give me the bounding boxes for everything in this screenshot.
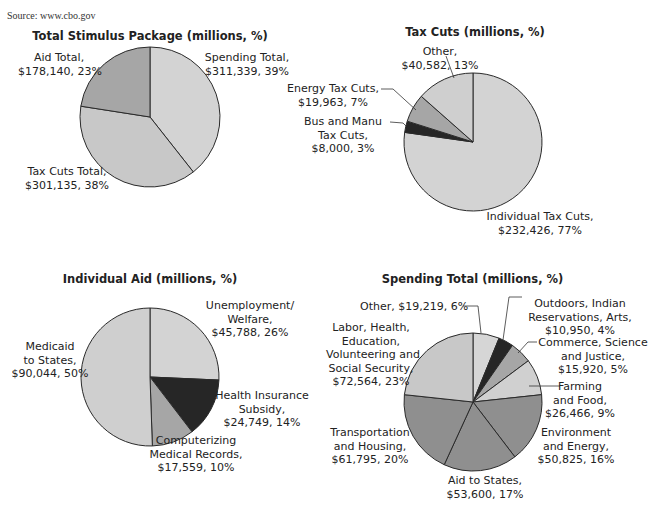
- label-tax-cuts-total: Tax Cuts Total, $301,135, 38%: [22, 165, 112, 192]
- label-commerce-science-justice: Commerce, Science and Justice, $15,920, …: [538, 336, 648, 377]
- label-bus-manu-tax-cuts: Bus and Manu Tax Cuts, $8,000, 3%: [300, 115, 386, 156]
- chart-title-tax-cuts: Tax Cuts (millions, %): [400, 25, 550, 39]
- label-spending-other: Other, $19,219, 6%: [360, 300, 460, 314]
- label-medicaid-to-states: Medicaid to States, $90,044, 50%: [10, 340, 90, 381]
- pie-tax-cuts: [404, 73, 542, 211]
- label-unemployment-welfare: Unemployment/ Welfare, $45,788, 26%: [200, 299, 300, 340]
- label-aid-to-states: Aid to States, $53,600, 17%: [440, 474, 530, 501]
- label-tax-other: Other, $40,582, 13%: [400, 45, 480, 72]
- label-transportation-housing: Transportation and Housing, $61,795, 20%: [330, 426, 410, 467]
- label-energy-tax-cuts: Energy Tax Cuts, $19,963, 7%: [283, 82, 383, 109]
- label-aid-total: Aid Total, $178,140, 23%: [18, 51, 100, 78]
- label-individual-tax-cuts: Individual Tax Cuts, $232,426, 77%: [475, 210, 605, 237]
- pie-spending-total: [404, 333, 542, 471]
- chart-title-total-stimulus: Total Stimulus Package (millions, %): [30, 29, 270, 43]
- label-spending-total: Spending Total, $311,339, 39%: [197, 51, 297, 78]
- label-computerizing-medical-records: Computerizing Medical Records, $17,559, …: [146, 434, 246, 475]
- label-environment-energy: Environment and Energy, $50,825, 16%: [536, 426, 616, 467]
- pie-individual-aid: [81, 308, 219, 446]
- pie-slice: [81, 308, 152, 446]
- label-farming-food: Farming and Food, $26,466, 9%: [545, 380, 615, 421]
- chart-title-spending-total: Spending Total (millions, %): [380, 272, 565, 286]
- label-health-insurance-subsidy: Health Insurance Subsidy, $24,749, 14%: [214, 389, 310, 430]
- chart-title-individual-aid: Individual Aid (millions, %): [60, 272, 240, 286]
- label-labor-health-education: Labor, Health, Education, Volunteering a…: [326, 321, 416, 389]
- label-outdoors-indian-reservations-arts: Outdoors, Indian Reservations, Arts, $10…: [525, 297, 635, 338]
